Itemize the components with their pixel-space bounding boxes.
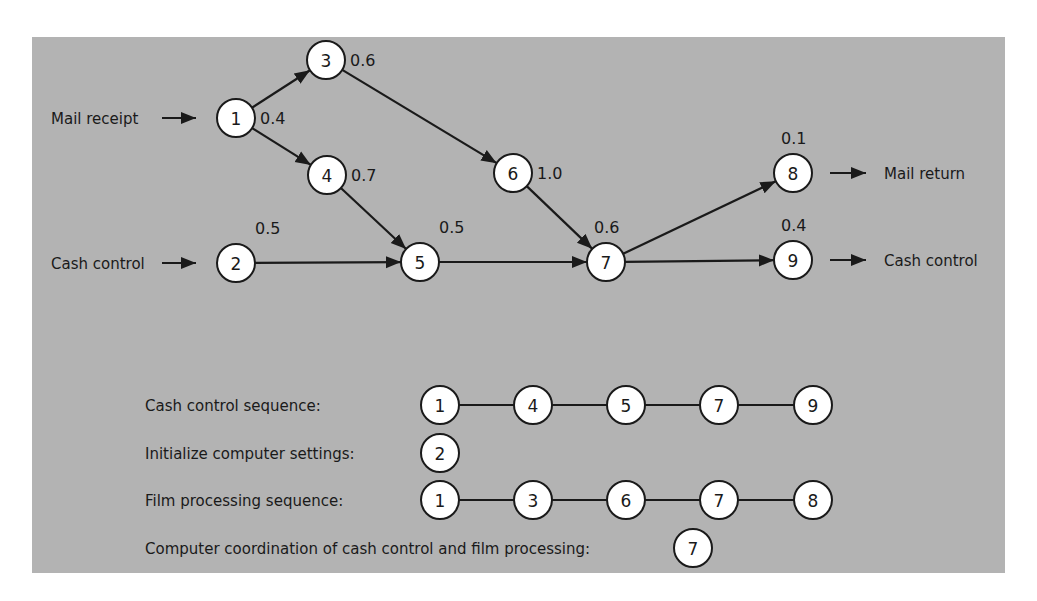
node-number: 7 [688,539,699,559]
node-number: 2 [231,254,242,274]
node-5: 5 [401,243,439,281]
precedence-network-diagram: Mail receiptCash controlMail returnCash … [0,0,1037,601]
node-8: 8 [774,154,812,192]
edge-2-5 [255,262,401,263]
edge-6-7 [527,186,593,249]
node-number: 7 [714,396,725,416]
node-3: 3 [307,41,345,79]
sequence-node-7: 7 [700,386,738,424]
node-number: 1 [435,396,446,416]
node-4: 4 [308,156,346,194]
node-number: 5 [415,253,426,273]
sequence-node-3: 3 [514,481,552,519]
edge-7-8 [623,181,776,254]
sequence-label: Film processing sequence: [145,492,343,510]
node-1-time-value: 0.4 [260,109,285,128]
output-label: Cash control [884,252,978,270]
node-number: 3 [528,491,539,511]
node-number: 7 [601,253,612,273]
node-4-time-value: 0.7 [351,166,376,185]
node-1: 1 [217,99,255,137]
sequence-node-1: 1 [421,481,459,519]
sequence-node-9: 9 [794,386,832,424]
node-9-time-value: 0.4 [781,216,806,235]
edge-1-4 [252,128,311,165]
sequence-node-1: 1 [421,386,459,424]
node-9: 9 [774,241,812,279]
node-number: 9 [788,251,799,271]
sequence-label: Initialize computer settings: [145,445,355,463]
node-2-time-value: 0.5 [255,219,280,238]
sequence-node-5: 5 [607,386,645,424]
sequence-node-4: 4 [514,386,552,424]
sequence-node-7: 7 [700,481,738,519]
sequence-node-2: 2 [421,434,459,472]
node-5-time-value: 0.5 [439,218,464,237]
node-number: 8 [788,164,799,184]
edge-4-5 [341,188,406,249]
node-number: 3 [321,51,332,71]
sequence-node-7: 7 [674,529,712,567]
input-label: Cash control [51,255,145,273]
sequence-label: Cash control sequence: [145,397,321,415]
node-6-time-value: 1.0 [537,164,562,183]
node-number: 5 [621,396,632,416]
node-7-time-value: 0.6 [594,218,619,237]
sequence-node-6: 6 [607,481,645,519]
node-number: 8 [808,491,819,511]
node-3-time-value: 0.6 [350,51,375,70]
node-number: 1 [231,109,242,129]
input-label: Mail receipt [51,110,138,128]
node-number: 2 [435,444,446,464]
edge-3-6 [342,70,496,163]
output-label: Mail return [884,165,965,183]
node-6: 6 [494,154,532,192]
node-number: 6 [508,164,519,184]
node-2: 2 [217,244,255,282]
sequence-label: Computer coordination of cash control an… [145,540,590,558]
node-number: 9 [808,396,819,416]
edge-1-3 [252,70,310,107]
node-7: 7 [587,243,625,281]
sequence-node-8: 8 [794,481,832,519]
node-number: 1 [435,491,446,511]
node-8-time-value: 0.1 [781,129,806,148]
node-number: 4 [528,396,539,416]
edge-7-9 [625,260,774,262]
node-number: 6 [621,491,632,511]
node-number: 7 [714,491,725,511]
node-number: 4 [322,166,333,186]
sequences-layer: Cash control sequence:14579Initialize co… [145,386,832,567]
